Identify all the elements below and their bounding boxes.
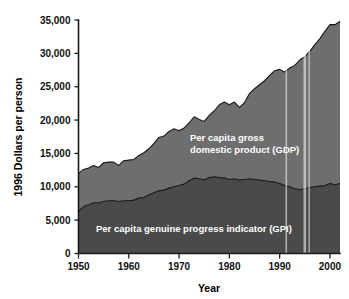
y-tick-label: 30,000 <box>40 48 71 59</box>
y-tick-label: 5,000 <box>45 215 70 226</box>
x-axis-title: Year <box>198 282 220 294</box>
x-tick-label: 2000 <box>319 261 342 272</box>
chart-container: 05,00010,00015,00020,00025,00030,00035,0… <box>0 0 349 299</box>
y-tick-label: 20,000 <box>40 115 71 126</box>
y-tick-label: 35,000 <box>40 15 71 26</box>
x-tick-label: 1970 <box>168 261 191 272</box>
y-tick-label: 25,000 <box>40 81 71 92</box>
gpi-annotation: Per capita genuine progress indicator (G… <box>96 223 292 234</box>
y-tick-label: 0 <box>65 248 71 259</box>
area-chart: 05,00010,00015,00020,00025,00030,00035,0… <box>0 0 349 299</box>
x-tick-label: 1960 <box>118 261 141 272</box>
gdp-annotation-line2: domestic product (GDP) <box>190 144 299 155</box>
y-tick-label: 15,000 <box>40 148 71 159</box>
x-tick-label: 1980 <box>218 261 241 272</box>
x-tick-label: 1990 <box>269 261 292 272</box>
y-tick-label: 10,000 <box>40 181 71 192</box>
x-tick-label: 1950 <box>67 261 90 272</box>
gdp-annotation-line1: Per capita gross <box>190 132 264 143</box>
y-axis-title: 1996 Dollars per person <box>12 77 24 196</box>
